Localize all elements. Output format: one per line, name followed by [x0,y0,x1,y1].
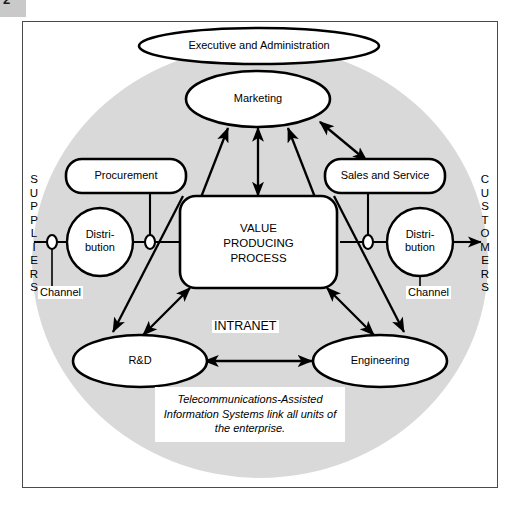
page-number-corner: 2 [0,0,26,17]
channel-label-right: Channel [406,286,451,299]
suppliers-axis-label: S U P P L I E R S [27,173,41,295]
caption-text-box: Telecommunications-Assisted Information … [155,387,345,442]
page-number: 2 [3,0,26,6]
channel-label-left: Channel [38,286,83,299]
intranet-label: INTRANET [212,320,279,333]
customers-axis-label: C U S T O M E R S [478,173,492,295]
